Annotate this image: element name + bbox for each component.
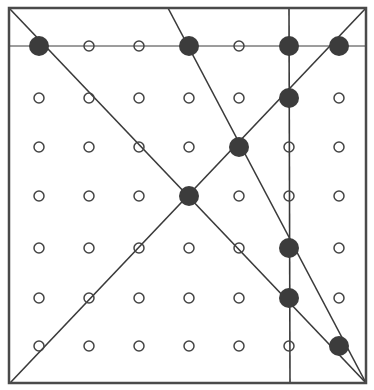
open-dot: [184, 341, 194, 351]
filled-dot: [229, 137, 249, 157]
open-dot: [84, 243, 94, 253]
open-dot: [234, 93, 244, 103]
filled-dot: [179, 186, 199, 206]
filled-dot: [279, 36, 299, 56]
open-dot: [84, 191, 94, 201]
open-dot: [234, 191, 244, 201]
open-dot: [184, 93, 194, 103]
open-dot: [34, 243, 44, 253]
open-dot: [84, 93, 94, 103]
open-dot: [34, 191, 44, 201]
open-dot: [34, 293, 44, 303]
open-dot: [184, 293, 194, 303]
filled-dot: [179, 36, 199, 56]
dots-layer: [29, 36, 349, 356]
open-dot: [334, 243, 344, 253]
open-dot: [134, 93, 144, 103]
open-dot: [134, 191, 144, 201]
open-dot: [34, 341, 44, 351]
open-dot: [334, 142, 344, 152]
open-dot: [334, 191, 344, 201]
filled-dot: [329, 336, 349, 356]
filled-dot: [279, 288, 299, 308]
open-dot: [84, 341, 94, 351]
open-dot: [334, 93, 344, 103]
open-dot: [34, 142, 44, 152]
open-dot: [34, 93, 44, 103]
open-dot: [234, 341, 244, 351]
open-dot: [134, 341, 144, 351]
open-dot: [134, 293, 144, 303]
dot-grid-diagram: [0, 0, 374, 390]
vertical-line: [289, 8, 290, 383]
open-dot: [234, 293, 244, 303]
open-dot: [234, 243, 244, 253]
filled-dot: [329, 36, 349, 56]
open-dot: [184, 243, 194, 253]
open-dot: [84, 142, 94, 152]
open-dot: [284, 341, 294, 351]
open-dot: [84, 293, 94, 303]
filled-dot: [279, 88, 299, 108]
open-dot: [334, 293, 344, 303]
filled-dot: [29, 36, 49, 56]
open-dot: [184, 142, 194, 152]
filled-dot: [279, 238, 299, 258]
